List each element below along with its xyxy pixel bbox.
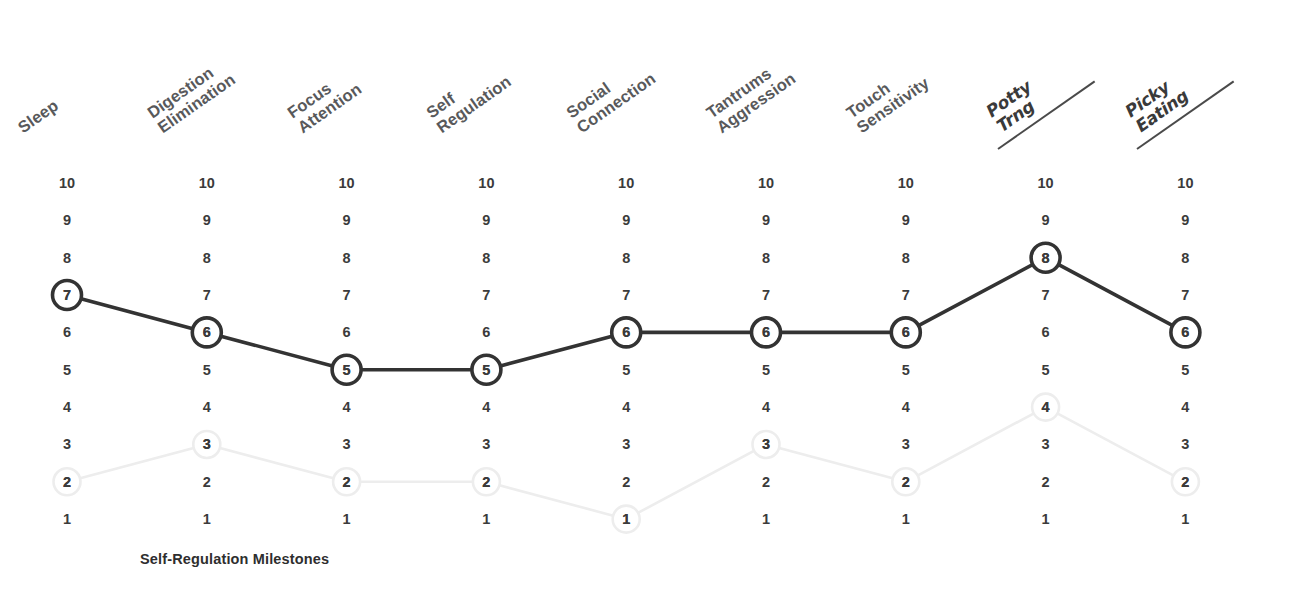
scale-number: 7 (469, 288, 503, 303)
scale-number: 10 (609, 176, 643, 191)
scale-number: 2 (1029, 475, 1063, 490)
scale-number: 6 (469, 325, 503, 340)
scale-number: 2 (749, 475, 783, 490)
scale-number: 4 (50, 400, 84, 415)
highlighted-value: 5 (330, 363, 364, 378)
scale-number: 1 (889, 512, 923, 527)
scale-number: 9 (469, 213, 503, 228)
scale-number: 9 (749, 213, 783, 228)
scale-number: 4 (330, 400, 364, 415)
scale-number: 3 (50, 437, 84, 452)
scale-number: 1 (1029, 512, 1063, 527)
scale-number: 5 (1029, 363, 1063, 378)
highlighted-value: 6 (889, 325, 923, 340)
scale-number: 8 (1168, 251, 1202, 266)
scale-number: 10 (330, 176, 364, 191)
scale-number: 8 (749, 251, 783, 266)
scale-number: 4 (469, 400, 503, 415)
scale-number: 1 (330, 512, 364, 527)
scale-number: 3 (330, 437, 364, 452)
scale-number: 8 (469, 251, 503, 266)
highlighted-value: 7 (50, 288, 84, 303)
scale-number: 7 (190, 288, 224, 303)
highlighted-value: 2 (330, 475, 364, 490)
scale-number: 3 (1029, 437, 1063, 452)
highlighted-value: 6 (749, 325, 783, 340)
scale-number: 4 (1168, 400, 1202, 415)
scale-number: 5 (1168, 363, 1202, 378)
scale-number: 10 (1168, 176, 1202, 191)
highlighted-value: 2 (50, 475, 84, 490)
scale-number: 5 (889, 363, 923, 378)
scale-number: 8 (50, 251, 84, 266)
highlighted-value: 3 (749, 437, 783, 452)
scale-number: 7 (609, 288, 643, 303)
scale-number-grid: 1098765432110987654321109876543211098765… (0, 0, 1308, 602)
scale-number: 2 (609, 475, 643, 490)
scale-number: 3 (889, 437, 923, 452)
scale-number: 8 (330, 251, 364, 266)
scale-number: 5 (749, 363, 783, 378)
highlighted-value: 6 (1168, 325, 1202, 340)
scale-number: 1 (50, 512, 84, 527)
scale-number: 8 (609, 251, 643, 266)
highlighted-value: 6 (190, 325, 224, 340)
scale-number: 7 (749, 288, 783, 303)
highlighted-value: 1 (609, 512, 643, 527)
scale-number: 1 (1168, 512, 1202, 527)
scale-number: 4 (889, 400, 923, 415)
scale-number: 9 (330, 213, 364, 228)
scale-number: 6 (1029, 325, 1063, 340)
scale-number: 9 (1029, 213, 1063, 228)
scale-number: 8 (889, 251, 923, 266)
highlighted-value: 8 (1029, 251, 1063, 266)
scale-number: 6 (50, 325, 84, 340)
scale-number: 2 (190, 475, 224, 490)
scale-number: 10 (469, 176, 503, 191)
highlighted-value: 2 (889, 475, 923, 490)
scale-number: 5 (190, 363, 224, 378)
scale-number: 9 (50, 213, 84, 228)
highlighted-value: 2 (1168, 475, 1202, 490)
chart-container: SleepDigestionEliminationFocusAttentionS… (0, 0, 1308, 602)
scale-number: 7 (330, 288, 364, 303)
scale-number: 10 (1029, 176, 1063, 191)
scale-number: 8 (190, 251, 224, 266)
scale-number: 9 (1168, 213, 1202, 228)
scale-number: 1 (469, 512, 503, 527)
highlighted-value: 5 (469, 363, 503, 378)
highlighted-value: 6 (609, 325, 643, 340)
scale-number: 9 (889, 213, 923, 228)
scale-number: 3 (469, 437, 503, 452)
scale-number: 7 (1168, 288, 1202, 303)
scale-number: 10 (749, 176, 783, 191)
scale-number: 5 (609, 363, 643, 378)
scale-number: 4 (749, 400, 783, 415)
scale-number: 10 (190, 176, 224, 191)
scale-number: 6 (330, 325, 364, 340)
scale-number: 9 (190, 213, 224, 228)
highlighted-value: 4 (1029, 400, 1063, 415)
scale-number: 3 (1168, 437, 1202, 452)
scale-number: 10 (50, 176, 84, 191)
scale-number: 5 (50, 363, 84, 378)
scale-number: 10 (889, 176, 923, 191)
scale-number: 7 (1029, 288, 1063, 303)
scale-number: 1 (190, 512, 224, 527)
scale-number: 3 (609, 437, 643, 452)
scale-number: 4 (609, 400, 643, 415)
scale-number: 7 (889, 288, 923, 303)
scale-number: 4 (190, 400, 224, 415)
scale-number: 9 (609, 213, 643, 228)
highlighted-value: 2 (469, 475, 503, 490)
highlighted-value: 3 (190, 437, 224, 452)
scale-number: 1 (749, 512, 783, 527)
